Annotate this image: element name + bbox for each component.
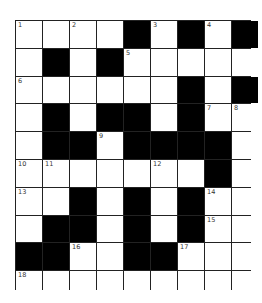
crossword-grid: 123456789101112131415161718 [15, 20, 251, 290]
letter-cell[interactable] [70, 49, 96, 76]
block-cell [124, 104, 150, 131]
letter-cell[interactable] [205, 49, 231, 76]
letter-cell[interactable]: 5 [124, 49, 150, 76]
letter-cell[interactable] [205, 243, 231, 270]
letter-cell[interactable]: 13 [16, 188, 42, 215]
block-cell [70, 188, 96, 215]
letter-cell[interactable] [205, 77, 231, 104]
letter-cell[interactable] [232, 160, 258, 187]
letter-cell[interactable] [178, 271, 204, 298]
letter-cell[interactable] [151, 77, 177, 104]
block-cell [124, 132, 150, 159]
letter-cell[interactable]: 8 [232, 104, 258, 131]
clue-number: 3 [153, 22, 157, 29]
clue-number: 16 [72, 244, 80, 251]
block-cell [178, 216, 204, 243]
clue-number: 7 [207, 105, 211, 112]
block-cell [232, 77, 258, 104]
letter-cell[interactable] [205, 271, 231, 298]
letter-cell[interactable] [151, 216, 177, 243]
letter-cell[interactable] [232, 49, 258, 76]
letter-cell[interactable]: 14 [205, 188, 231, 215]
letter-cell[interactable] [70, 160, 96, 187]
letter-cell[interactable]: 3 [151, 21, 177, 48]
block-cell [97, 104, 123, 131]
clue-number: 15 [207, 217, 215, 224]
block-cell [124, 216, 150, 243]
letter-cell[interactable] [97, 216, 123, 243]
letter-cell[interactable]: 18 [16, 271, 42, 298]
block-cell [43, 132, 69, 159]
clue-number: 14 [207, 189, 215, 196]
letter-cell[interactable] [232, 132, 258, 159]
letter-cell[interactable]: 11 [43, 160, 69, 187]
clue-number: 18 [18, 272, 26, 279]
letter-cell[interactable] [43, 271, 69, 298]
clue-number: 6 [18, 78, 22, 85]
letter-cell[interactable] [151, 271, 177, 298]
letter-cell[interactable] [16, 216, 42, 243]
block-cell [70, 216, 96, 243]
block-cell [43, 243, 69, 270]
letter-cell[interactable] [232, 188, 258, 215]
letter-cell[interactable] [70, 271, 96, 298]
letter-cell[interactable] [16, 132, 42, 159]
letter-cell[interactable] [151, 188, 177, 215]
block-cell [178, 21, 204, 48]
block-cell [124, 243, 150, 270]
letter-cell[interactable] [151, 49, 177, 76]
letter-cell[interactable] [43, 21, 69, 48]
block-cell [124, 21, 150, 48]
letter-cell[interactable]: 4 [205, 21, 231, 48]
block-cell [151, 243, 177, 270]
clue-number: 1 [18, 22, 22, 29]
block-cell [97, 49, 123, 76]
letter-cell[interactable]: 2 [70, 21, 96, 48]
letter-cell[interactable]: 12 [151, 160, 177, 187]
letter-cell[interactable]: 10 [16, 160, 42, 187]
block-cell [43, 216, 69, 243]
letter-cell[interactable]: 1 [16, 21, 42, 48]
letter-cell[interactable]: 7 [205, 104, 231, 131]
block-cell [178, 188, 204, 215]
block-cell [16, 243, 42, 270]
clue-number: 5 [126, 50, 130, 57]
letter-cell[interactable] [124, 77, 150, 104]
letter-cell[interactable] [97, 271, 123, 298]
clue-number: 9 [99, 133, 103, 140]
clue-number: 2 [72, 22, 76, 29]
letter-cell[interactable]: 17 [178, 243, 204, 270]
letter-cell[interactable] [70, 77, 96, 104]
letter-cell[interactable] [232, 271, 258, 298]
letter-cell[interactable] [16, 104, 42, 131]
block-cell [178, 104, 204, 131]
letter-cell[interactable] [16, 49, 42, 76]
block-cell [205, 132, 231, 159]
letter-cell[interactable] [97, 160, 123, 187]
letter-cell[interactable] [232, 216, 258, 243]
letter-cell[interactable] [70, 104, 96, 131]
letter-cell[interactable] [178, 160, 204, 187]
letter-cell[interactable] [97, 243, 123, 270]
block-cell [205, 160, 231, 187]
clue-number: 10 [18, 161, 26, 168]
letter-cell[interactable] [43, 77, 69, 104]
letter-cell[interactable] [124, 160, 150, 187]
letter-cell[interactable] [43, 188, 69, 215]
letter-cell[interactable]: 6 [16, 77, 42, 104]
letter-cell[interactable] [97, 21, 123, 48]
letter-cell[interactable] [232, 243, 258, 270]
clue-number: 8 [234, 105, 238, 112]
letter-cell[interactable] [97, 77, 123, 104]
block-cell [70, 132, 96, 159]
letter-cell[interactable]: 15 [205, 216, 231, 243]
letter-cell[interactable] [124, 271, 150, 298]
letter-cell[interactable]: 16 [70, 243, 96, 270]
letter-cell[interactable]: 9 [97, 132, 123, 159]
letter-cell[interactable] [151, 104, 177, 131]
letter-cell[interactable] [178, 49, 204, 76]
block-cell [124, 188, 150, 215]
letter-cell[interactable] [97, 188, 123, 215]
clue-number: 11 [45, 161, 53, 168]
block-cell [43, 49, 69, 76]
